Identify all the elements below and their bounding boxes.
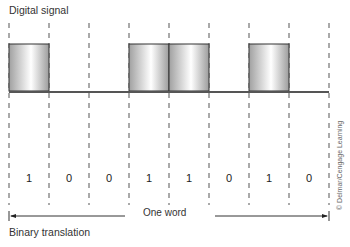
credit-text: © Delmar/Cengage Learning — [336, 121, 343, 210]
diagram-footer: Binary translation — [9, 226, 90, 238]
bit-label: 1 — [26, 172, 32, 184]
high-pulse — [9, 44, 49, 91]
bit-label: 0 — [306, 172, 312, 184]
bit-label: 0 — [106, 172, 112, 184]
word-label: One word — [143, 207, 186, 218]
bit-label: 0 — [66, 172, 72, 184]
high-pulse — [129, 44, 169, 91]
bit-label: 1 — [266, 172, 272, 184]
bit-label: 1 — [146, 172, 152, 184]
bit-label: 0 — [226, 172, 232, 184]
bit-label: 1 — [186, 172, 192, 184]
high-pulse — [249, 44, 289, 91]
high-pulse — [169, 44, 209, 91]
